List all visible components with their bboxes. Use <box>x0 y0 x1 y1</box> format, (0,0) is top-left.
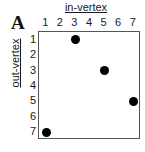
data-point <box>71 35 80 44</box>
y-tick-label: 2 <box>22 48 36 60</box>
data-point <box>42 128 51 137</box>
x-tick-label: 2 <box>53 15 67 30</box>
x-tick-label: 5 <box>97 15 111 30</box>
y-axis-title: out-vertex <box>9 20 21 106</box>
y-tick-label: 3 <box>22 64 36 76</box>
data-point <box>100 66 109 75</box>
y-tick-label: 6 <box>22 110 36 122</box>
x-tick-label: 4 <box>82 15 96 30</box>
y-tick-label: 1 <box>22 33 36 45</box>
y-tick-label: 5 <box>22 94 36 106</box>
y-axis-tick-labels: 1234567 <box>22 31 36 139</box>
y-tick-label: 7 <box>22 125 36 137</box>
x-axis-title: in-vertex <box>48 1 124 13</box>
x-axis-tick-labels: 1234567 <box>38 15 140 31</box>
scatter-plot-figure: in-vertex A 1234567 out-vertex 1234567 <box>0 0 145 152</box>
x-tick-label: 3 <box>67 15 81 30</box>
x-tick-label: 6 <box>111 15 125 30</box>
x-tick-label: 7 <box>126 15 140 30</box>
plot-area <box>39 32 139 138</box>
plot-frame <box>38 31 140 139</box>
x-tick-label: 1 <box>38 15 52 30</box>
data-point <box>129 97 138 106</box>
y-tick-label: 4 <box>22 79 36 91</box>
